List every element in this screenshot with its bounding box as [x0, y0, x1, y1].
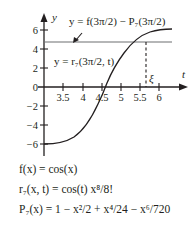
svg-text:−6: −6	[27, 139, 38, 150]
formula-p7: P₇(x) = 1 − x²/2 + x⁴/24 − x⁶/720	[19, 199, 170, 219]
curve-annotation: y = r₇(3π/2, t)	[54, 55, 115, 68]
svg-text:−4: −4	[27, 120, 39, 131]
y-tick-labels: 6 4 2 0 −2 −4 −6	[27, 25, 39, 150]
formula-list: f(x) = cos(x) r₇(x, t) = cos(t) x⁸/8! P₇…	[19, 159, 170, 219]
y-axis-label: y	[51, 11, 57, 23]
svg-text:4: 4	[33, 44, 39, 55]
formula-f: f(x) = cos(x)	[19, 159, 170, 179]
top-annotation: y = f(3π/2) − P₇(3π/2)	[69, 15, 166, 28]
svg-text:−2: −2	[27, 101, 38, 112]
svg-text:6: 6	[156, 92, 161, 103]
svg-text:4.5: 4.5	[95, 92, 108, 103]
svg-text:6: 6	[33, 25, 38, 36]
xi-label: ξ	[149, 72, 154, 85]
chart: 6 4 2 0 −2 −4 −6 3.5 4 4.5 5 5.5 6 y t ξ…	[0, 0, 193, 160]
svg-text:5: 5	[118, 92, 123, 103]
formula-r7: r₇(x, t) = cos(t) x⁸/8!	[19, 179, 170, 199]
svg-text:2: 2	[33, 63, 38, 74]
svg-text:4: 4	[80, 92, 86, 103]
t-axis-label: t	[182, 68, 186, 80]
svg-text:5.5: 5.5	[133, 92, 146, 103]
svg-text:3.5: 3.5	[56, 92, 69, 103]
svg-text:0: 0	[33, 82, 38, 93]
t-axis-arrow-icon	[179, 84, 188, 91]
t-tick-labels: 3.5 4 4.5 5 5.5 6	[56, 92, 161, 103]
y-axis-arrow-icon	[41, 13, 48, 22]
